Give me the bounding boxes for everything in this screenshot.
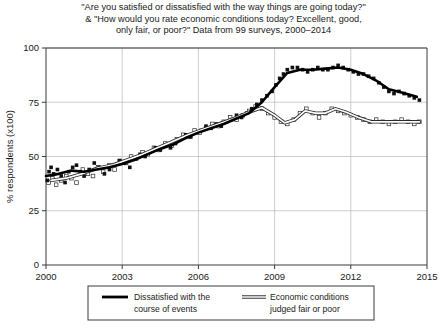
data-point-dissatisfied-0	[45, 179, 49, 183]
data-point-dissatisfied-78	[418, 98, 422, 102]
data-point-dissatisfied-9	[75, 163, 79, 167]
data-point-dissatisfied-15	[103, 172, 107, 176]
data-point-economic-13	[113, 168, 117, 172]
data-point-dissatisfied-6	[63, 181, 67, 185]
xtick-label-2006: 2006	[188, 271, 209, 282]
legend-label-dissatisfied-line-1: Dissatisfied with the	[134, 292, 210, 302]
data-point-economic-2	[54, 183, 58, 187]
data-point-dissatisfied-1	[47, 170, 51, 174]
data-point-dissatisfied-20	[128, 166, 132, 170]
data-point-dissatisfied-4	[56, 168, 60, 172]
xtick-label-2009: 2009	[264, 271, 285, 282]
data-point-dissatisfied-2	[49, 166, 53, 170]
data-point-economic-47	[317, 116, 321, 120]
ytick-label-50: 50	[28, 151, 39, 162]
trendline-dissatisfied	[46, 68, 417, 177]
y-axis-label: % respondents (x100)	[4, 110, 15, 203]
data-point-dissatisfied-73	[392, 92, 396, 96]
ytick-label-0: 0	[34, 259, 39, 270]
data-point-economic-6	[75, 181, 79, 185]
chart-svg: 0255075100200020032006200920122015% resp…	[0, 0, 447, 329]
xtick-label-2003: 2003	[112, 271, 133, 282]
chart-page: "Are you satisfied or dissatisfied with …	[0, 0, 447, 329]
data-point-dissatisfied-53	[291, 66, 295, 70]
xtick-label-2000: 2000	[35, 271, 56, 282]
legend-label-dissatisfied-line-2: course of events	[134, 304, 197, 314]
legend-label-economic-line-1: Economic conditions	[270, 292, 349, 302]
ytick-label-25: 25	[28, 205, 39, 216]
data-point-economic-9	[91, 174, 95, 178]
data-point-dissatisfied-13	[92, 161, 96, 165]
data-point-dissatisfied-52	[286, 68, 290, 72]
ytick-label-100: 100	[23, 42, 39, 53]
ytick-label-75: 75	[28, 97, 39, 108]
legend-label-economic-line-2: judged fair or poor	[269, 304, 340, 314]
xtick-label-2012: 2012	[340, 271, 361, 282]
data-point-dissatisfied-8	[71, 166, 75, 170]
xtick-label-2015: 2015	[416, 271, 437, 282]
